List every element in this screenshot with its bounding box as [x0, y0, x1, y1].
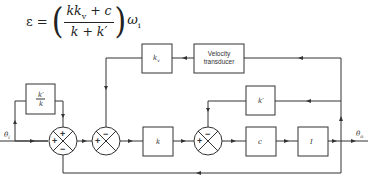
svg-text:+: +: [52, 136, 57, 146]
k-prime-label: k′: [258, 97, 264, 105]
velocity-transducer-line1: Velocity: [208, 50, 231, 58]
feedforward-numerator: k′: [38, 91, 44, 99]
svg-text:+: +: [197, 136, 202, 146]
c-gain-label: c: [258, 138, 262, 146]
inertia-block: [298, 127, 328, 156]
block-diagram: θi k′ k + + − − + k − +: [0, 0, 372, 184]
svg-text:−: −: [205, 129, 210, 139]
summing-junction-2: − +: [92, 127, 120, 155]
input-line: [0, 139, 48, 143]
svg-text:−: −: [103, 129, 108, 139]
input-theta-label: θi: [4, 131, 10, 140]
summing-junction-1: + + −: [49, 127, 77, 155]
k-gain-label: k: [156, 138, 160, 146]
svg-text:−: −: [60, 144, 65, 154]
inertia-label: I: [309, 138, 313, 146]
svg-text:+: +: [60, 129, 65, 139]
output-theta-label: θo: [356, 130, 363, 139]
svg-text:+: +: [95, 136, 100, 146]
summing-junction-3: − +: [194, 127, 222, 155]
feedforward-denominator: k: [39, 100, 43, 108]
velocity-transducer-line2: transducer: [204, 58, 236, 65]
